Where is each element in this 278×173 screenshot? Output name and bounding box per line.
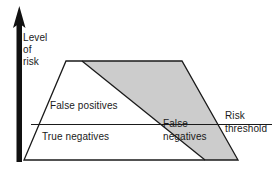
false-negatives-label: False negatives [163, 118, 207, 143]
axis-label-line-2: of [23, 44, 47, 56]
false-negatives-label-line-2: negatives [163, 131, 207, 144]
diagram-canvas [0, 0, 278, 173]
risk-axis-shaft [17, 19, 23, 162]
axis-label-line-3: risk [23, 56, 47, 68]
risk-threshold-diagram: Level of risk False positives True negat… [0, 0, 278, 173]
true-negatives-label: True negatives [42, 131, 109, 143]
axis-label-line-1: Level [23, 32, 47, 44]
risk-threshold-label: Risk threshold [225, 109, 267, 135]
risk-threshold-label-line-2: threshold [225, 122, 267, 135]
false-negatives-label-line-1: False [163, 118, 207, 131]
risk-threshold-label-line-1: Risk [225, 109, 267, 122]
axis-label: Level of risk [23, 32, 47, 68]
false-positives-label: False positives [50, 100, 118, 112]
